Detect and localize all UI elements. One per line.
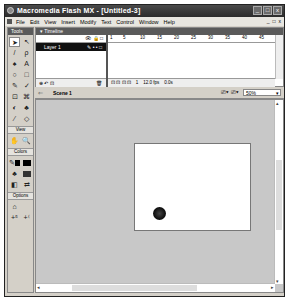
layer-name: Layer 1	[44, 44, 61, 50]
document-icon[interactable]	[7, 19, 12, 24]
vertical-scrollbar[interactable]: ▴ ▾	[274, 100, 283, 284]
options-section-label: Options	[8, 192, 33, 200]
snap-magnet-icon[interactable]: ⌂	[9, 202, 20, 212]
view-section-label: View	[8, 126, 33, 134]
timeline-scrollbar[interactable]	[275, 35, 283, 79]
layers-area: 👁 🔒 □ Layer 1 ✎ • • □ ⊕ ↶ ⊡ 🗑	[36, 35, 108, 87]
zoom-tool-icon[interactable]: 🔍	[21, 136, 32, 146]
timeline-title[interactable]: ▾ Timeline	[36, 28, 283, 35]
pen-tool-icon[interactable]: ♠	[9, 59, 20, 69]
work-area[interactable]: ▴ ▾ ◂ ▸	[35, 99, 284, 293]
subselect-tool-icon[interactable]: ↖	[21, 37, 32, 47]
layer-header-icons[interactable]: 👁 🔒 □	[36, 35, 106, 43]
vertical-scroll-thumb[interactable]	[276, 160, 282, 230]
tools-panel: Tools ➤ ↖ / ρ ♠ A ○ □ ✎ ✓ ⊡ ⌘ ◐ ♣ ⁄ ◇ Vi…	[7, 27, 34, 293]
swap-colors-icon[interactable]: ⇄	[21, 180, 32, 190]
close-button[interactable]: x	[273, 6, 282, 15]
title-bar: Macromedia Flash MX - [Untitled-3] _ □ x	[5, 5, 284, 17]
menu-insert[interactable]: Insert	[61, 19, 75, 25]
minimize-button[interactable]: _	[253, 6, 262, 15]
menu-edit[interactable]: Edit	[30, 19, 39, 25]
eyedropper-tool-icon[interactable]: ⁄	[9, 114, 20, 124]
brush-tool-icon[interactable]: ✓	[21, 81, 32, 91]
add-layer-icon[interactable]: ⊕ ↶ ⊡	[39, 80, 54, 86]
menu-help[interactable]: Help	[164, 19, 175, 25]
default-colors-icon[interactable]: ◧	[9, 180, 20, 190]
flash-window: Macromedia Flash MX - [Untitled-3] _ □ x…	[4, 4, 285, 297]
timeline-status: ⊡ ⊡ ⊡ ⊡ 1 12.0 fps 0.0s	[108, 78, 275, 87]
paint-bucket-tool-icon[interactable]: ♣	[21, 103, 32, 113]
menu-bar: File Edit View Insert Modify Text Contro…	[5, 17, 284, 26]
line-tool-icon[interactable]: /	[9, 48, 20, 58]
free-transform-tool-icon[interactable]: ⊡	[9, 92, 20, 102]
edit-symbol-icons[interactable]: ⎚▾ ⎚▾	[221, 89, 239, 96]
doc-restore-button[interactable]: □	[272, 18, 275, 24]
horizontal-scroll-thumb[interactable]	[72, 285, 197, 291]
doc-close-button[interactable]: x	[279, 18, 282, 24]
fill-color-icon[interactable]: ♣	[9, 169, 20, 179]
eraser-tool-icon[interactable]: ◇	[21, 114, 32, 124]
frames-area[interactable]: 1 5 10 15 20 25 30 35 40 45 ⊡ ⊡ ⊡ ⊡ 1 12…	[108, 35, 275, 87]
menu-text[interactable]: Text	[101, 19, 111, 25]
chevron-down-icon: ▾	[276, 90, 279, 97]
layer-footer: ⊕ ↶ ⊡ 🗑	[36, 78, 106, 87]
doc-minimize-button[interactable]: _	[267, 18, 270, 24]
oval-tool-icon[interactable]: ○	[9, 70, 20, 80]
maximize-button[interactable]: □	[263, 6, 272, 15]
scene-label: Scene 1	[53, 90, 72, 96]
menu-modify[interactable]: Modify	[80, 19, 96, 25]
menu-file[interactable]: File	[16, 19, 25, 25]
circle-shape[interactable]	[153, 207, 166, 220]
ink-bottle-tool-icon[interactable]: ◐	[9, 103, 20, 113]
onion-skin-icons[interactable]: ⊡ ⊡ ⊡ ⊡	[111, 79, 131, 87]
fill-transform-tool-icon[interactable]: ⌘	[21, 92, 32, 102]
layer-row[interactable]: Layer 1 ✎ • • □	[36, 43, 106, 51]
app-icon	[7, 7, 14, 14]
menu-control[interactable]: Control	[116, 19, 134, 25]
lasso-tool-icon[interactable]: ρ	[21, 48, 32, 58]
pencil-tool-icon[interactable]: ✎	[9, 81, 20, 91]
fill-swatch[interactable]	[21, 169, 32, 179]
straighten-option-icon[interactable]: +⁽	[21, 213, 32, 223]
rectangle-tool-icon[interactable]: □	[21, 70, 32, 80]
stage[interactable]	[134, 143, 251, 231]
elapsed-time: 0.0s	[164, 79, 173, 87]
frame-rate: 12.0 fps	[143, 79, 159, 87]
hand-tool-icon[interactable]: ✋	[9, 136, 20, 146]
menu-window[interactable]: Window	[139, 19, 159, 25]
layer-controls[interactable]: ✎ • • □	[87, 43, 102, 51]
frame-ruler[interactable]: 1 5 10 15 20 25 30 35 40 45	[108, 35, 275, 43]
timeline-panel: ▾ Timeline 👁 🔒 □ Layer 1 ✎ • • □ ⊕ ↶ ⊡ 🗑…	[35, 27, 284, 87]
stroke-swatch[interactable]	[21, 158, 32, 168]
zoom-select[interactable]: 50% ▾	[243, 89, 281, 96]
back-arrow-icon[interactable]: ⇐	[38, 89, 43, 96]
text-tool-icon[interactable]: A	[21, 59, 32, 69]
current-frame: 1	[136, 79, 139, 87]
stroke-color-icon[interactable]: ✎	[9, 158, 20, 168]
horizontal-scrollbar[interactable]: ◂ ▸	[36, 283, 275, 292]
edit-bar: ⇐ Scene 1 ⎚▾ ⎚▾ 50% ▾	[35, 88, 284, 99]
delete-layer-icon[interactable]: 🗑	[96, 79, 102, 87]
arrow-tool-icon[interactable]: ➤	[9, 37, 20, 47]
tools-title: Tools	[8, 28, 33, 35]
window-title: Macromedia Flash MX - [Untitled-3]	[17, 7, 140, 14]
colors-section-label: Colors	[8, 148, 33, 156]
menu-view[interactable]: View	[44, 19, 56, 25]
smooth-option-icon[interactable]: +⁵	[9, 213, 20, 223]
